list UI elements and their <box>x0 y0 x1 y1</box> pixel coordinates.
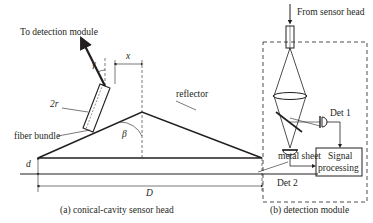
gamma-angle-label: γ <box>92 60 96 70</box>
det2-label: Det 2 <box>277 179 298 189</box>
reflector-cone <box>38 112 262 158</box>
D-dimension-label: D <box>146 189 153 199</box>
det1-label: Det 1 <box>330 109 351 119</box>
reflector-label: reflector <box>176 90 208 100</box>
lens <box>273 93 307 100</box>
fiber-bundle <box>83 84 110 132</box>
x-dimension-label: x <box>126 52 130 62</box>
fiber-bundle-label: fiber bundle <box>14 132 60 142</box>
from-sensor-head-label: From sensor head <box>297 8 365 18</box>
metal-sheet-label: metal sheet <box>278 152 321 162</box>
sensor-head-diagram <box>20 42 318 192</box>
signal-processing-label-2: processing <box>318 164 359 174</box>
to-detection-module-label: To detection module <box>20 28 98 38</box>
two-r-label: 2r <box>50 100 58 110</box>
signal-processing-label-1: Signal <box>328 152 352 162</box>
caption-b: (b) detection module <box>270 206 349 216</box>
beta-angle-label: β <box>122 130 127 140</box>
caption-a: (a) conical-cavity sensor head <box>60 206 174 216</box>
det1-detector <box>322 117 327 127</box>
d-dimension-label: d <box>26 160 31 170</box>
